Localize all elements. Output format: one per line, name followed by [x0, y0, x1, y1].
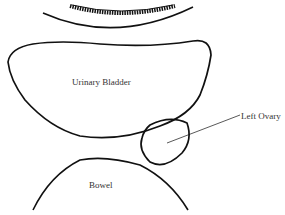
bowel-label: Bowel: [89, 180, 113, 190]
diagram-canvas: [0, 0, 285, 215]
left-ovary-label: Left Ovary: [241, 111, 281, 121]
urinary-bladder-outline: [8, 41, 211, 138]
outer-arc: [43, 7, 193, 28]
left-ovary-outline: [141, 119, 189, 164]
hatched-band: [70, 5, 175, 13]
anatomy-diagram: Urinary Bladder Left Ovary Bowel: [0, 0, 285, 215]
urinary-bladder-label: Urinary Bladder: [72, 77, 131, 87]
